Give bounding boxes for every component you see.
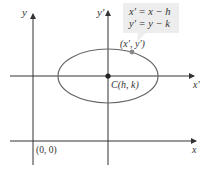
center-label: C(h, k) (111, 80, 139, 90)
y-axis-label: y (22, 7, 27, 18)
equation-callout: x′ = x − h y′ = y − k (123, 3, 179, 33)
x-axis-label: x (192, 145, 196, 155)
equation-y-prime: y′ = y − k (129, 19, 170, 30)
ellipse-point (130, 50, 135, 55)
point-label: (x′, y′) (120, 39, 145, 49)
origin-label: (0, 0) (36, 146, 57, 156)
equation-x-prime: x′ = x − h (129, 7, 171, 18)
x-prime-axis-label: x′ (193, 80, 200, 90)
center-point (105, 73, 110, 78)
y-prime-axis-label: y′ (97, 7, 104, 18)
